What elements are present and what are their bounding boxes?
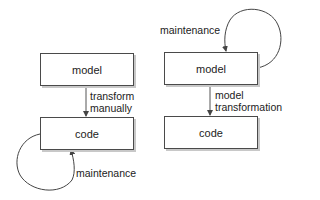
left-code-label: code (75, 128, 99, 140)
right-model-box: model (164, 52, 258, 85)
right-code-box: code (164, 116, 258, 149)
right-arrow-label-line2: transformation (215, 101, 282, 113)
left-model-label: model (72, 64, 102, 76)
left-arrow-label-line1: transform (90, 90, 134, 102)
left-arrow-label: transform manually (90, 90, 134, 114)
left-code-box: code (40, 117, 134, 150)
left-arrow-label-line2: manually (90, 102, 134, 114)
right-arrow-label-line1: model (215, 89, 282, 101)
left-model-box: model (40, 53, 134, 86)
right-arrow-label: model transformation (215, 89, 282, 113)
left-maintenance-label: maintenance (76, 167, 136, 179)
right-model-label: model (196, 63, 226, 75)
right-code-label: code (199, 127, 223, 139)
right-maintenance-label: maintenance (160, 24, 220, 36)
